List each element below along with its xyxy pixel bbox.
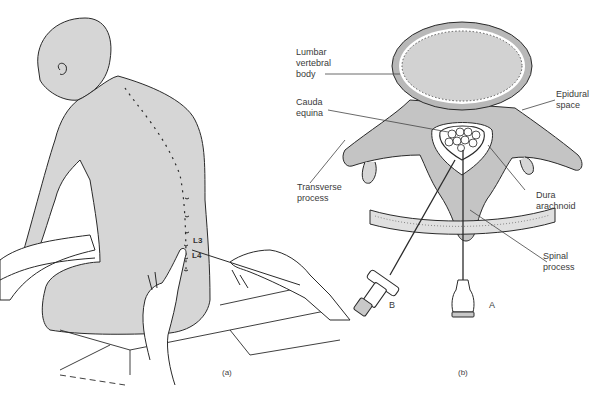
label-cauda-equina: Cauda equina <box>296 97 323 119</box>
needle-a-hub <box>452 280 474 317</box>
label-lumbar-vertebral-body: Lumbar vertebral body <box>296 47 331 80</box>
patient-torso <box>18 76 210 334</box>
label-spinal-process: Spinal process <box>543 251 575 273</box>
right-hand <box>230 250 350 320</box>
vertebra-cross-section <box>310 22 582 317</box>
caption-b: (b) <box>458 368 468 377</box>
vertebra-label-l4: L4 <box>192 251 201 260</box>
caption-a: (a) <box>222 368 232 377</box>
vertebra-label-l3: L3 <box>193 236 202 245</box>
label-transverse-process: Transverse process <box>297 182 342 204</box>
needle-label-a: A <box>489 300 495 311</box>
needle-label-b: B <box>389 300 395 311</box>
label-epidural-space: Epidural space <box>556 89 589 111</box>
label-dura-arachnoid: Dura arachnoid <box>536 190 576 212</box>
